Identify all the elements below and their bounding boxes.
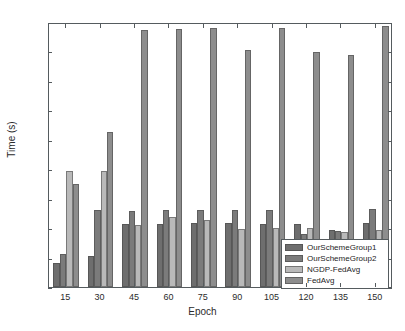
bar-group	[88, 24, 113, 287]
x-tick-mark	[306, 283, 307, 287]
bar	[73, 184, 79, 287]
bar-group	[53, 24, 78, 287]
y-tick-mark-right	[388, 259, 392, 260]
y-tick-mark-right	[388, 200, 392, 201]
x-tick-mark-top	[203, 24, 204, 28]
y-tick-mark	[48, 111, 52, 112]
x-tick-mark	[272, 283, 273, 287]
y-tick-mark-right	[388, 23, 392, 24]
x-tick-mark-top	[375, 24, 376, 28]
y-tick-mark	[48, 52, 52, 53]
x-tick-mark	[100, 283, 101, 287]
bar	[176, 29, 182, 287]
y-tick-mark-right	[388, 111, 392, 112]
x-tick-mark	[340, 283, 341, 287]
y-tick-mark	[48, 23, 52, 24]
legend-label: OurSchemeGroup2	[307, 253, 376, 264]
x-tick-mark	[203, 283, 204, 287]
legend-swatch	[285, 266, 303, 273]
legend-label: OurSchemeGroup1	[307, 242, 376, 253]
x-tick-mark-top	[237, 24, 238, 28]
x-tick-mark-top	[65, 24, 66, 28]
x-tick-label: 150	[355, 292, 395, 302]
x-tick-mark	[237, 283, 238, 287]
legend-swatch	[285, 244, 303, 251]
legend-item[interactable]: FedAvg	[285, 275, 385, 286]
bar	[245, 50, 251, 287]
bar-group	[157, 24, 182, 287]
legend-item[interactable]: OurSchemeGroup2	[285, 253, 385, 264]
x-tick-mark-top	[272, 24, 273, 28]
bar-group	[225, 24, 250, 287]
y-tick-mark	[48, 141, 52, 142]
figure-bar-chart: Time (s) Epoch OurSchemeGroup1OurSchemeG…	[0, 0, 405, 331]
x-tick-mark-top	[100, 24, 101, 28]
y-tick-mark-right	[388, 170, 392, 171]
legend: OurSchemeGroup1OurSchemeGroup2NGDP-FedAv…	[281, 239, 389, 289]
x-tick-mark	[375, 283, 376, 287]
x-tick-mark	[65, 283, 66, 287]
x-tick-mark-top	[306, 24, 307, 28]
y-tick-mark	[48, 200, 52, 201]
y-tick-mark-right	[388, 82, 392, 83]
bar	[210, 28, 216, 287]
y-tick-mark-right	[388, 229, 392, 230]
legend-swatch	[285, 255, 303, 262]
y-tick-mark	[48, 288, 52, 289]
x-tick-mark-top	[340, 24, 341, 28]
y-tick-mark	[48, 229, 52, 230]
legend-label: FedAvg	[307, 275, 334, 286]
y-tick-mark-right	[388, 141, 392, 142]
y-tick-mark	[48, 82, 52, 83]
bar	[107, 132, 113, 287]
y-tick-mark-right	[388, 288, 392, 289]
y-tick-mark	[48, 259, 52, 260]
legend-label: NGDP-FedAvg	[307, 264, 360, 275]
x-tick-mark-top	[134, 24, 135, 28]
x-tick-mark-top	[168, 24, 169, 28]
x-tick-mark	[168, 283, 169, 287]
y-tick-mark	[48, 170, 52, 171]
x-axis-label: Epoch	[0, 306, 405, 317]
y-tick-mark-right	[388, 52, 392, 53]
bar-group	[122, 24, 147, 287]
y-axis-label: Time (s)	[6, 90, 17, 190]
legend-item[interactable]: OurSchemeGroup1	[285, 242, 385, 253]
legend-swatch	[285, 277, 303, 284]
legend-item[interactable]: NGDP-FedAvg	[285, 264, 385, 275]
bar-group	[191, 24, 216, 287]
x-tick-mark	[134, 283, 135, 287]
bar	[141, 30, 147, 287]
